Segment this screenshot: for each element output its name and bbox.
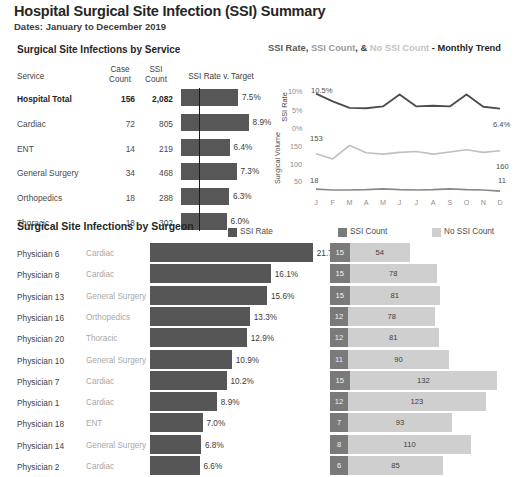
surgeon-rate-bar [150, 413, 203, 432]
surgeon-rate-bar [150, 286, 267, 305]
surgeon-rate-bar [150, 435, 201, 454]
surgeon-rate-bar [150, 307, 250, 326]
surgeon-rate-bar [150, 264, 271, 283]
service-rate-bar-wrap: 6.3% [181, 188, 267, 205]
surgeon-rate-label: 6.8% [205, 441, 224, 450]
ssi-count-label: 12 [330, 397, 348, 406]
service-rate-label: 7.3% [241, 167, 260, 176]
surgeon-rate-label: 8.9% [221, 398, 240, 407]
surgeon-rate-bar [150, 392, 217, 411]
service-name: General Surgery [17, 168, 78, 178]
surgeon-rate-bar [150, 371, 227, 390]
surgeon-rate-label: 6.6% [204, 462, 223, 471]
month-tick: M [343, 198, 355, 207]
trend-legend-ssi-rate: SSI Rate [268, 43, 306, 53]
no-ssi-count-label: 132 [350, 376, 498, 385]
service-row: Orthopedics182886.3% [17, 187, 267, 212]
surgeon-name: Physician 20 [17, 334, 64, 344]
surgeon-name: Physician 2 [17, 462, 59, 472]
surgeon-rate-bar [150, 456, 200, 475]
no-ssi-count-label: 78 [348, 312, 435, 321]
col-ssi-count: SSI Count [141, 65, 171, 84]
service-rate-bar [181, 114, 249, 131]
service-name: ENT [17, 144, 34, 154]
service-row: General Surgery344687.3% [17, 162, 267, 187]
legend-label: SSI Count [350, 227, 387, 236]
surgeon-service: General Surgery [86, 356, 146, 365]
surgeon-name: Physician 10 [17, 356, 64, 366]
surgeon-service: General Surgery [86, 441, 146, 450]
month-tick: N [477, 198, 489, 207]
service-case-count: 14 [101, 144, 135, 154]
service-rate-bar-wrap: 7.5% [181, 89, 267, 106]
surgeon-row: Physician 2Cardiac6.6%685 [0, 453, 524, 477]
surgeon-name: Physician 18 [17, 419, 64, 429]
surgeon-service: Cardiac [86, 462, 114, 471]
surgeon-name: Physician 8 [17, 270, 59, 280]
service-case-count: 156 [101, 94, 135, 104]
month-tick: O [461, 198, 473, 207]
ssi-count-label: 12 [330, 312, 348, 321]
surgeon-section-heading: Surgical Site Infections by Surgeon [17, 220, 194, 232]
surgeon-service: Thoracic [86, 334, 117, 343]
service-rate-bar [181, 188, 229, 205]
ssi-count-label: 7 [330, 418, 348, 427]
ssi-count-first-label: 18 [310, 176, 318, 185]
service-section-heading: Surgical Site Infections by Service [17, 44, 180, 55]
ssi-count-label: 15 [330, 269, 350, 278]
surgeon-service: ENT [86, 419, 102, 428]
no-ssi-count-label: 90 [348, 355, 449, 364]
service-row: Cardiac728058.9% [17, 113, 267, 138]
trend-legend-ssi-count: SSI Count [311, 43, 355, 53]
month-tick: A [360, 198, 372, 207]
surgeon-service: Cardiac [86, 398, 114, 407]
surgeon-name: Physician 16 [17, 313, 64, 323]
ssi-count-last-label: 11 [498, 176, 506, 185]
surgeon-service: Cardiac [86, 249, 114, 258]
month-tick: J [310, 198, 322, 207]
trend-section-heading: SSI Rate, SSI Count, & No SSI Count - Mo… [268, 43, 501, 53]
surgeon-service: General Surgery [86, 292, 146, 301]
surgeon-rate-bar [150, 328, 247, 347]
legend-swatch [338, 228, 347, 237]
ssi-count-label: 6 [330, 461, 348, 470]
service-case-count: 18 [101, 193, 135, 203]
service-ssi-count: 288 [135, 193, 173, 203]
ssi-count-label: 12 [330, 333, 348, 342]
surgeon-rate-label: 15.6% [271, 292, 294, 301]
legend-label: SSI Rate [240, 227, 273, 236]
surgeon-name: Physician 7 [17, 377, 59, 387]
service-ssi-count: 2,082 [135, 94, 173, 104]
ssi-count-line [268, 62, 518, 210]
col-ssi-rate-target: SSI Rate v. Target [175, 72, 267, 82]
surgeon-rate-label: 10.9% [236, 356, 259, 365]
col-case-count-l1: Case [105, 65, 135, 75]
month-tick: M [377, 198, 389, 207]
ssi-count-label: 15 [330, 376, 350, 385]
surgeon-name: Physician 1 [17, 398, 59, 408]
service-name: Orthopedics [17, 193, 62, 203]
legend-label: No SSI Count [444, 227, 494, 236]
ssi-count-label: 11 [330, 355, 348, 364]
surgeon-rate-label: 16.1% [275, 270, 298, 279]
month-tick: A [427, 198, 439, 207]
no-ssi-count-label: 54 [350, 248, 411, 257]
trend-legend-no-ssi-count: No SSI Count [370, 43, 429, 53]
surgeon-name: Physician 14 [17, 441, 64, 451]
service-rate-bar-wrap: 7.3% [181, 163, 267, 180]
service-name: Cardiac [17, 119, 46, 129]
service-table-header: Service Case Count SSI Count SSI Rate v.… [17, 64, 267, 88]
service-row: Hospital Total1562,0827.5% [17, 88, 267, 113]
service-rate-bar-wrap: 6.4% [181, 139, 267, 156]
service-row: ENT142196.4% [17, 138, 267, 163]
service-name: Hospital Total [17, 94, 72, 104]
trend-ampersand: & [360, 43, 369, 53]
surgeon-rate-bar [150, 243, 313, 262]
monthly-trend-chart: 10%5%0%10.5%6.4%SSI Rate15010050153160Su… [268, 62, 518, 210]
service-ssi-count: 805 [135, 119, 173, 129]
service-table-body: Hospital Total1562,0827.5%Cardiac728058.… [17, 88, 267, 237]
service-rate-bar-wrap: 8.9% [181, 114, 267, 131]
trend-title-tail: - Monthly Trend [429, 43, 501, 53]
service-rate-label: 6.4% [234, 143, 253, 152]
service-rate-bar [181, 139, 230, 156]
